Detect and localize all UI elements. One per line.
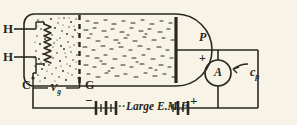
label-plate-current: cp (250, 66, 259, 82)
label-battery-negative: − (85, 94, 92, 107)
diagram-canvas: H H C G P + Vg − + ·· Large E.M.F. · A c… (0, 0, 297, 125)
battery-cells-left (95, 101, 116, 115)
vg-subscript: g (57, 87, 61, 96)
label-cathode: C (22, 79, 31, 91)
label-grid: G (85, 79, 94, 91)
cp-subscript: p (255, 72, 259, 81)
heater-bridge (36, 22, 44, 64)
label-plate: P (199, 31, 206, 43)
label-grid-voltage: Vg (50, 82, 61, 96)
cathode-lead (33, 64, 36, 73)
label-emf-dots-left: ·· (118, 101, 125, 112)
drift-region-dashes (83, 20, 175, 77)
label-battery-positive: + (190, 94, 197, 107)
label-plate-polarity: + (199, 52, 206, 64)
label-emf-dot-right: · (168, 101, 172, 112)
cathode-stipple-region (33, 17, 78, 81)
filament-coil (44, 24, 51, 63)
label-large-emf: Large E.M.F. (126, 101, 190, 113)
label-heater-bottom: H (3, 50, 13, 63)
label-heater-top: H (3, 22, 13, 35)
label-ammeter: A (214, 66, 222, 78)
